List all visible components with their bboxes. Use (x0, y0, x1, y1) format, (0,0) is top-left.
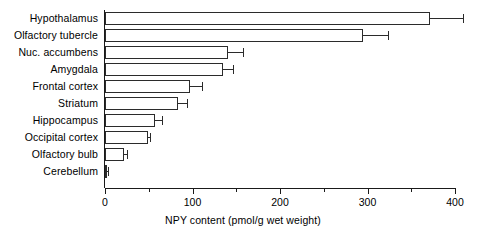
error-bar-cap (187, 99, 188, 108)
bar-row (105, 95, 455, 112)
bar (105, 46, 228, 59)
bar-row (105, 27, 455, 44)
bar-row (105, 10, 455, 27)
x-tick-label: 300 (348, 196, 388, 208)
x-tick-major (368, 188, 369, 194)
error-bar-line (178, 103, 188, 104)
category-label: Hypothalamus (0, 10, 101, 27)
bar (105, 12, 430, 25)
x-tick-minor (411, 188, 412, 192)
category-label: Amygdala (0, 61, 101, 78)
bar-row (105, 129, 455, 146)
error-bar-line (228, 52, 243, 53)
x-tick-major (280, 188, 281, 194)
x-tick-major (455, 188, 456, 194)
error-bar-cap (202, 82, 203, 91)
error-bar-cap (388, 31, 389, 40)
bar-row (105, 78, 455, 95)
error-bar-line (363, 35, 388, 36)
category-label-column: HypothalamusOlfactory tubercleNuc. accum… (0, 10, 101, 180)
x-tick-minor (149, 188, 150, 192)
category-label: Cerebellum (0, 163, 101, 180)
error-bar-cap (243, 48, 244, 57)
x-tick-label: 200 (260, 196, 300, 208)
x-axis-label: NPY content (pmol/g wet weight) (0, 214, 486, 226)
x-tick-major (105, 188, 106, 194)
category-label: Olfactory bulb (0, 146, 101, 163)
category-label: Olfactory tubercle (0, 27, 101, 44)
error-bar-cap (463, 14, 464, 23)
error-bar-line (190, 86, 202, 87)
error-bar-cap (162, 116, 163, 125)
error-bar-line (155, 120, 162, 121)
bar-row (105, 146, 455, 163)
bar (105, 29, 363, 42)
x-tick-minor (324, 188, 325, 192)
x-tick-major (193, 188, 194, 194)
category-label: Nuc. accumbens (0, 44, 101, 61)
error-bar-line (430, 18, 463, 19)
error-bar-cap (127, 150, 128, 159)
x-tick-label: 100 (173, 196, 213, 208)
category-label: Hippocampus (0, 112, 101, 129)
bar (105, 63, 223, 76)
error-bar-line (223, 69, 233, 70)
bar-row (105, 112, 455, 129)
x-tick-label: 400 (435, 196, 475, 208)
x-tick-minor (236, 188, 237, 192)
category-label: Striatum (0, 95, 101, 112)
bar (105, 80, 190, 93)
bar (105, 131, 148, 144)
error-bar-cap (108, 167, 109, 176)
bar-row (105, 61, 455, 78)
npy-content-bar-chart: HypothalamusOlfactory tubercleNuc. accum… (0, 0, 486, 236)
bar (105, 114, 155, 127)
plot-area (105, 10, 455, 180)
bar-row (105, 44, 455, 61)
category-label: Occipital cortex (0, 129, 101, 146)
bar-row (105, 163, 455, 180)
bar (105, 148, 124, 161)
error-bar-cap (150, 133, 151, 142)
error-bar-cap (233, 65, 234, 74)
category-label: Frontal cortex (0, 78, 101, 95)
bar (105, 97, 178, 110)
x-tick-label: 0 (85, 196, 125, 208)
